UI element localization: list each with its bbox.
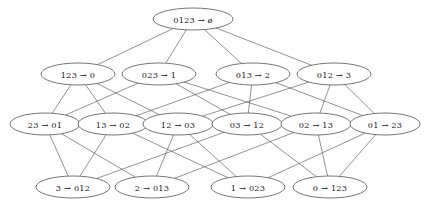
lattice-edge bbox=[204, 30, 241, 64]
lattice-edge bbox=[216, 28, 312, 65]
lattice-edge bbox=[260, 134, 316, 177]
lattice-node[interactable]: 02 → 13 bbox=[281, 113, 351, 135]
lattice-node[interactable]: 123 → 0 bbox=[41, 63, 115, 85]
lattice-edge bbox=[80, 135, 106, 176]
node-label: 123 → 0 bbox=[61, 70, 95, 80]
edge-layer bbox=[50, 28, 376, 179]
lattice-edge bbox=[52, 85, 71, 113]
lattice-edge bbox=[345, 85, 375, 114]
lattice-node[interactable]: 3 → 012 bbox=[36, 176, 110, 198]
lattice-edge bbox=[248, 85, 251, 113]
lattice-node[interactable]: 023 → 1 bbox=[122, 63, 196, 85]
lattice-edge bbox=[157, 135, 174, 176]
node-label: 02 → 13 bbox=[299, 120, 333, 130]
lattice-edge bbox=[203, 82, 309, 116]
lattice-node[interactable]: 03 → 12 bbox=[212, 113, 282, 135]
lattice-node[interactable]: 1 → 023 bbox=[211, 176, 285, 198]
lattice-edge bbox=[175, 133, 294, 179]
node-label: 2 → 013 bbox=[135, 183, 169, 193]
node-label: 13 → 02 bbox=[96, 120, 130, 130]
lattice-edge bbox=[50, 135, 68, 176]
lattice-node[interactable]: 13 → 02 bbox=[78, 113, 148, 135]
node-label: 23 → 01 bbox=[28, 120, 62, 130]
lattice-edge bbox=[276, 83, 363, 116]
lattice-edge bbox=[96, 132, 224, 178]
node-label: 03 → 12 bbox=[230, 120, 264, 130]
node-label: 0123 → ø bbox=[173, 15, 212, 25]
lattice-edge bbox=[61, 134, 135, 177]
lattice-edge bbox=[318, 135, 327, 176]
node-layer: 0123 → ø123 → 0023 → 1013 → 2012 → 323 →… bbox=[10, 8, 420, 198]
lattice-edge bbox=[184, 82, 291, 116]
node-label: 01 → 23 bbox=[368, 120, 402, 130]
lattice-node[interactable]: 0 → 123 bbox=[293, 176, 367, 198]
lattice-node[interactable]: 01 → 23 bbox=[350, 113, 420, 135]
lattice-svg: 0123 → ø123 → 0023 → 1013 → 2012 → 323 →… bbox=[0, 0, 429, 215]
node-label: 0 → 123 bbox=[313, 183, 347, 193]
hasse-diagram-canvas: 0123 → ø123 → 0023 → 1013 → 2012 → 323 →… bbox=[0, 0, 429, 215]
lattice-edge bbox=[268, 133, 365, 178]
lattice-edge bbox=[339, 135, 375, 177]
lattice-edge bbox=[190, 134, 237, 176]
node-label: 013 → 2 bbox=[236, 70, 270, 80]
lattice-edge bbox=[65, 83, 138, 115]
lattice-node[interactable]: 23 → 01 bbox=[10, 113, 80, 135]
node-label: 3 → 012 bbox=[56, 183, 90, 193]
lattice-edge bbox=[98, 29, 174, 65]
lattice-edge bbox=[320, 85, 330, 113]
lattice-node[interactable]: 012 → 3 bbox=[297, 63, 371, 85]
node-label: 023 → 1 bbox=[142, 70, 176, 80]
node-label: 1 → 023 bbox=[231, 183, 265, 193]
node-label: 012 → 3 bbox=[317, 70, 351, 80]
lattice-node[interactable]: 2 → 013 bbox=[115, 176, 189, 198]
lattice-node[interactable]: 12 → 03 bbox=[143, 113, 213, 135]
node-label: 12 → 03 bbox=[161, 120, 195, 130]
lattice-node[interactable]: 013 → 2 bbox=[216, 63, 290, 85]
lattice-node[interactable]: 0123 → ø bbox=[153, 8, 233, 30]
lattice-edge bbox=[97, 83, 159, 114]
lattice-edge bbox=[166, 30, 187, 63]
lattice-edge bbox=[133, 133, 229, 178]
